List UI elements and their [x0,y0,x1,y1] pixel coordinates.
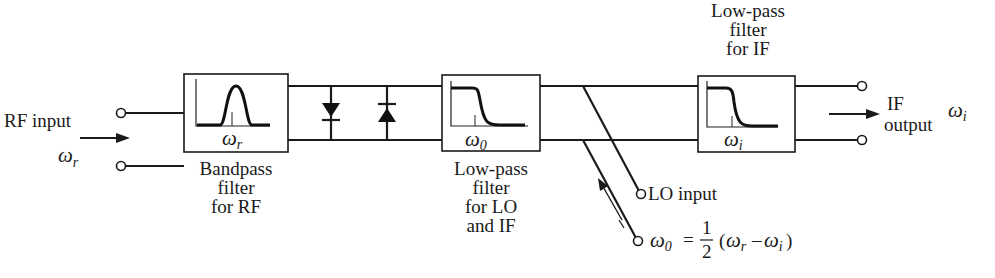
svg-text:filter: filter [473,177,511,198]
svg-text:filter: filter [218,177,256,198]
lo-input-label: LO input [648,183,718,204]
diode-pair [322,86,396,140]
svg-text:for LO: for LO [465,196,517,217]
lo-terminal-bottom [634,237,643,246]
svg-text:(: ( [719,230,725,252]
svg-text:–: – [751,229,762,250]
rf-terminal-top [117,109,126,118]
svg-text:filter: filter [730,19,768,40]
if-output-label-line1: IF [887,93,904,114]
svg-text:Low-pass: Low-pass [711,0,785,21]
svg-text:=: = [683,229,694,250]
bandpass-filter-block: ωr [184,74,288,152]
if-terminal-top [858,82,867,91]
arrow-right-icon [866,109,880,119]
svg-text:and IF: and IF [466,215,515,236]
arrow-right-icon [116,133,130,143]
svg-text:ω0: ω0 [650,228,672,254]
svg-text:ωi: ωi [764,228,783,254]
rf-input-label: RF input [4,110,72,131]
if-terminal-bottom [858,136,867,145]
lo-terminal-top [637,190,646,199]
rf-input: RF input ωr [4,110,130,170]
svg-text:2: 2 [702,241,712,262]
bandpass-filter-caption: Bandpass filter for RF [200,158,273,217]
mixer-diagram: RF input ωr ωr Bandpass filter for RF [0,0,995,278]
if-filter-caption: Low-pass filter for IF [711,0,785,59]
svg-text:for RF: for RF [211,196,261,217]
if-output-label-line2: output [884,114,933,135]
svg-text:1: 1 [702,217,712,238]
diode-up-icon [378,108,396,122]
svg-text:Low-pass: Low-pass [454,158,528,179]
if-output: IF output ωi [829,93,967,135]
svg-text:for IF: for IF [726,38,770,59]
diode-down-icon [322,103,340,117]
lo-if-filter-caption: Low-pass filter for LO and IF [454,158,528,236]
rf-terminal-bottom [117,162,126,171]
svg-text:ωr: ωr [726,228,747,254]
lo-if-lowpass-filter-block: ω0 [442,75,540,153]
if-symbol: ωi [948,98,967,124]
if-lowpass-filter-block: ωi [698,76,795,153]
svg-text:): ) [786,230,792,252]
rf-symbol: ωr [58,143,79,170]
lo-frequency-equation: ω0 = 1 2 ( ωr – ωi ) [650,217,792,262]
svg-text:Bandpass: Bandpass [200,158,273,179]
